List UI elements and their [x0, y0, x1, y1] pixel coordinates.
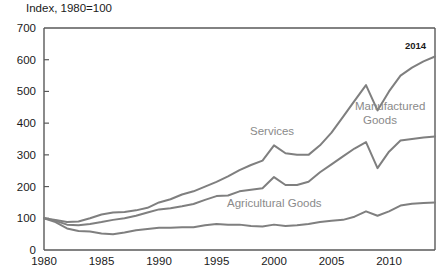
y-axis-tick-label: 100 — [2, 212, 36, 224]
x-axis-tick-label: 1995 — [194, 255, 240, 267]
x-axis-tick-label: 2010 — [366, 255, 412, 267]
series-label: Agricultural Goods — [227, 196, 322, 210]
x-axis-tick-label: 1985 — [79, 255, 125, 267]
y-axis-tick-label: 700 — [2, 22, 36, 34]
y-axis-tick-label: 600 — [2, 54, 36, 66]
y-axis-tick-label: 400 — [2, 117, 36, 129]
x-axis-tick-label: 1980 — [21, 255, 67, 267]
x-axis-tick-label: 2000 — [251, 255, 297, 267]
y-axis-tick-label: 200 — [2, 181, 36, 193]
chart-container: Index, 1980=100 7006005004003002001000 1… — [0, 0, 443, 274]
x-axis-tick-label: 1990 — [136, 255, 182, 267]
x-axis-tick-label: 2005 — [309, 255, 355, 267]
chart-axes — [44, 28, 435, 250]
y-axis-tick-label: 500 — [2, 85, 36, 97]
series-label: Manufactured — [355, 99, 425, 113]
y-axis-tick-label: 300 — [2, 149, 36, 161]
series-label: Goods — [363, 113, 397, 127]
series-label: Services — [250, 124, 294, 138]
series-line-manufactured-goods — [44, 136, 435, 225]
chart-plot-area — [0, 0, 443, 274]
chart-annotation: 2014 — [405, 40, 426, 51]
